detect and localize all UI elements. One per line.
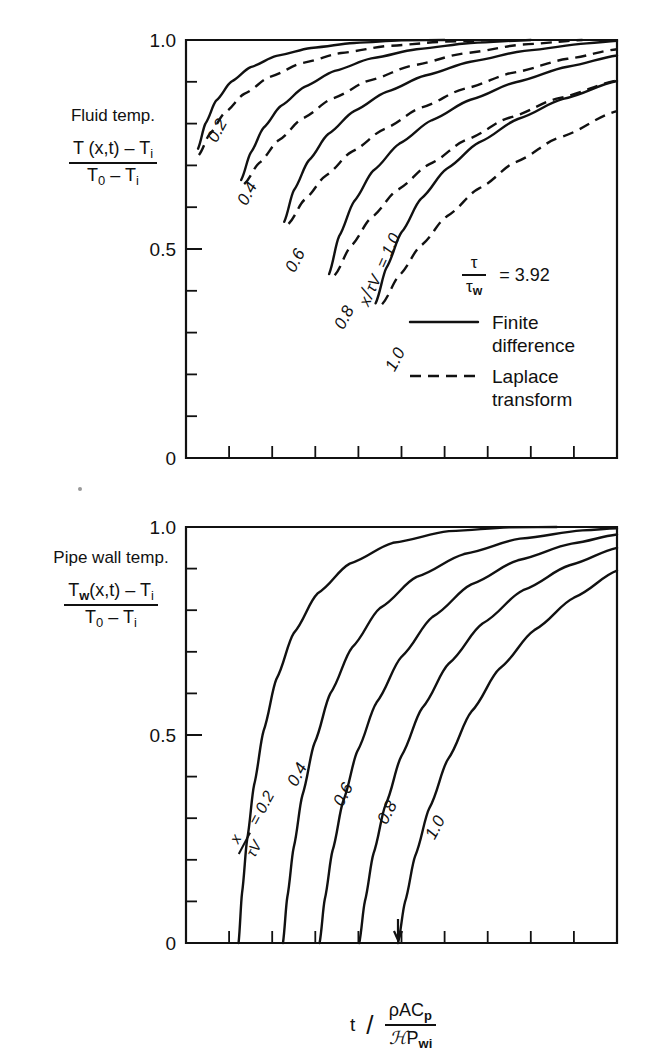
- curve-finite-difference: [198, 40, 445, 149]
- curve-laplace: [289, 49, 617, 224]
- fluid-num-main: T (x,t) – T: [73, 138, 150, 158]
- curve-finite-difference: [398, 571, 617, 943]
- fluid-den-b: – T: [105, 165, 136, 185]
- x-den-rest: P: [407, 1028, 419, 1048]
- wall-num-sub: w: [79, 588, 89, 603]
- legend-label: Finite: [492, 312, 538, 333]
- curve-label-group: 0.8: [373, 797, 401, 827]
- fluid-den-b-sub: i: [136, 172, 139, 187]
- curve-value-label: 0.8: [373, 797, 401, 827]
- curve-finite-difference: [283, 528, 617, 943]
- tau-den: τ: [466, 277, 473, 296]
- curve-finite-difference: [329, 55, 617, 274]
- wall-den-b: – T: [103, 607, 134, 627]
- y-tick-label: 0.5: [150, 239, 176, 260]
- curve-value-label: 1.0: [381, 344, 409, 374]
- y-tick-label: 0: [165, 448, 176, 469]
- legend-label: Laplace: [492, 366, 559, 387]
- y-tick-label: 0: [165, 933, 176, 954]
- tau-den-sub: w: [473, 284, 483, 298]
- curve-label-group: 0.6: [329, 779, 357, 809]
- figure-root: 1.00.500.20.40.60.81.0FinitedifferenceLa…: [0, 0, 657, 1063]
- curve-label-group: 0.6: [281, 245, 309, 275]
- wall-den-b-sub: i: [134, 614, 137, 629]
- tau-num: τ: [462, 253, 486, 274]
- fluid-temp-formula: T (x,t) – Ti T0 – Ti: [28, 138, 198, 187]
- wall-den-a: T: [85, 607, 96, 627]
- curve-laplace: [199, 40, 496, 155]
- curve-value-label: 0.6: [281, 245, 309, 275]
- curve-label-group: 0.4: [283, 760, 311, 790]
- bottom-group-eq: = 0.2: [243, 788, 277, 832]
- curve-finite-difference: [239, 527, 557, 943]
- x-num-sub: p: [424, 1008, 432, 1023]
- fluid-temp-axis-title: Fluid temp. T (x,t) – Ti T0 – Ti: [28, 106, 198, 187]
- legend-label: difference: [492, 335, 575, 356]
- tau-ratio-annotation: τ τw = 3.92: [462, 253, 550, 298]
- curve-finite-difference: [359, 548, 617, 943]
- x-axis-slash: /: [360, 1010, 379, 1041]
- fluid-den-a: T: [87, 165, 98, 185]
- curve-value-label: 0.6: [329, 779, 357, 809]
- wall-num-rest-sub: i: [151, 588, 154, 603]
- pipe-wall-title-text: Pipe wall temp.: [22, 548, 200, 568]
- wall-num-t: T: [68, 580, 79, 600]
- curve-finite-difference: [320, 534, 617, 943]
- pipe-wall-formula: Tw(x,t) – Ti T0 – Ti: [22, 580, 200, 629]
- curve-label-group: 0.8: [330, 302, 358, 332]
- scan-speck: [78, 487, 82, 491]
- wall-num-rest: (x,t) – T: [89, 580, 151, 600]
- y-tick-label: 1.0: [150, 517, 176, 538]
- curve-label-group: 0.4: [233, 179, 261, 209]
- y-tick-label: 1.0: [150, 30, 176, 51]
- x-num: ρAC: [389, 1000, 424, 1020]
- x-den-rest-sub: wi: [419, 1035, 433, 1050]
- pipe-wall-axis-title: Pipe wall temp. Tw(x,t) – Ti T0 – Ti: [22, 548, 200, 629]
- fluid-temp-chart: 1.00.500.20.40.60.81.0FinitedifferenceLa…: [0, 0, 657, 480]
- curve-value-label: 0.4: [233, 179, 261, 209]
- fluid-num-sub: i: [150, 146, 153, 161]
- curve-value-label: 0.8: [330, 302, 358, 332]
- tau-ratio-value: = 3.92: [491, 265, 550, 286]
- fluid-temp-title-text: Fluid temp.: [28, 106, 198, 126]
- curve-value-label: 0.4: [283, 760, 311, 790]
- x-axis-title: t / ρACp ℋPwi: [350, 1000, 436, 1050]
- legend-label: transform: [492, 389, 572, 410]
- y-tick-label: 0.5: [150, 725, 176, 746]
- curve-label-group: 1.0: [381, 344, 409, 374]
- x-den-script: ℋ: [389, 1028, 407, 1048]
- x-axis-variable: t: [350, 1014, 355, 1036]
